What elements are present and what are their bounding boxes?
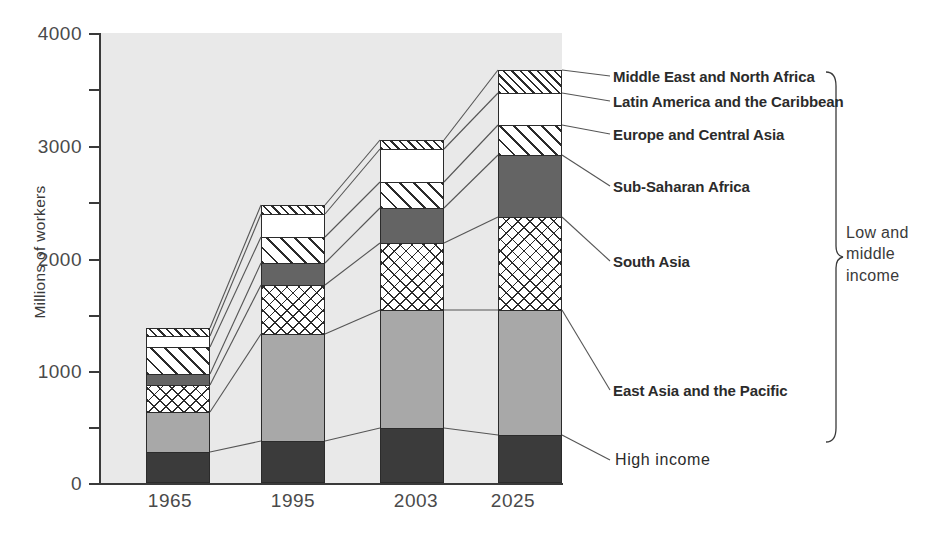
y-tick-1000 bbox=[89, 371, 100, 373]
x-label-1995: 1995 bbox=[248, 490, 338, 512]
legend-item-latin-america-and-the-caribbean: Latin America and the Caribbean bbox=[613, 93, 844, 110]
chart-figure: 4000 3000 2000 1000 0 Millions of worker… bbox=[0, 0, 930, 534]
segment-2003-high-income[interactable] bbox=[380, 428, 444, 483]
legend-item-south-asia: South Asia bbox=[613, 253, 690, 270]
legend-item-east-asia-and-the-pacific: East Asia and the Pacific bbox=[613, 382, 788, 399]
y-label-0: 0 bbox=[0, 474, 82, 493]
y-tick-1500 bbox=[89, 315, 100, 317]
legend-item-europe-and-central-asia: Europe and Central Asia bbox=[613, 126, 784, 143]
segment-2003-middle-east-north-africa[interactable] bbox=[380, 140, 444, 149]
segment-1965-sub-saharan-africa[interactable] bbox=[146, 374, 210, 385]
segment-2003-europe-central-asia[interactable] bbox=[380, 182, 444, 208]
legend-item-high-income: High income bbox=[615, 451, 711, 469]
legend-item-middle-east-and-north-africa: Middle East and North Africa bbox=[613, 68, 815, 85]
segment-2025-high-income[interactable] bbox=[498, 435, 562, 483]
bracket-caption-line-3: income bbox=[846, 265, 909, 286]
segment-1995-sub-saharan-africa[interactable] bbox=[261, 263, 325, 285]
bracket-caption: Low and middle income bbox=[846, 222, 909, 286]
segment-2025-middle-east-north-africa[interactable] bbox=[498, 70, 562, 93]
bracket-caption-line-1: Low and bbox=[846, 222, 909, 243]
y-axis-title: Millions of workers bbox=[31, 152, 49, 352]
segment-2025-europe-central-asia[interactable] bbox=[498, 125, 562, 155]
segment-1995-south-asia[interactable] bbox=[261, 285, 325, 334]
y-label-1000: 1000 bbox=[0, 362, 82, 381]
bar-2025[interactable] bbox=[498, 70, 562, 483]
x-label-2025: 2025 bbox=[468, 490, 558, 512]
segment-1995-middle-east-north-africa[interactable] bbox=[261, 205, 325, 214]
segment-2025-south-asia[interactable] bbox=[498, 217, 562, 310]
segment-1965-east-asia-pacific[interactable] bbox=[146, 412, 210, 452]
segment-1995-high-income[interactable] bbox=[261, 441, 325, 483]
segment-2003-latin-america-caribbean[interactable] bbox=[380, 149, 444, 182]
segment-1965-south-asia[interactable] bbox=[146, 385, 210, 412]
y-tick-500 bbox=[89, 427, 100, 429]
segment-1995-east-asia-pacific[interactable] bbox=[261, 334, 325, 441]
legend-item-sub-saharan-africa: Sub-Saharan Africa bbox=[613, 178, 750, 195]
bar-2003[interactable] bbox=[380, 140, 444, 483]
bracket-caption-line-2: middle bbox=[846, 243, 909, 264]
segment-1965-high-income[interactable] bbox=[146, 452, 210, 483]
y-tick-2500 bbox=[89, 202, 100, 204]
segment-2003-sub-saharan-africa[interactable] bbox=[380, 208, 444, 243]
segment-1965-latin-america-caribbean[interactable] bbox=[146, 336, 210, 347]
segment-1995-europe-central-asia[interactable] bbox=[261, 237, 325, 263]
segment-2025-sub-saharan-africa[interactable] bbox=[498, 155, 562, 217]
y-tick-3500 bbox=[89, 89, 100, 91]
segment-2025-latin-america-caribbean[interactable] bbox=[498, 93, 562, 125]
segment-1995-latin-america-caribbean[interactable] bbox=[261, 214, 325, 237]
segment-2025-east-asia-pacific[interactable] bbox=[498, 310, 562, 435]
bar-1965[interactable] bbox=[146, 328, 210, 483]
segment-2003-east-asia-pacific[interactable] bbox=[380, 310, 444, 428]
x-axis-line bbox=[99, 483, 563, 485]
segment-1965-europe-central-asia[interactable] bbox=[146, 347, 210, 374]
x-label-1965: 1965 bbox=[125, 490, 215, 512]
bar-1995[interactable] bbox=[261, 205, 325, 483]
y-tick-2000 bbox=[89, 259, 100, 261]
y-tick-3000 bbox=[89, 146, 100, 148]
y-tick-4000 bbox=[89, 33, 100, 35]
segment-1965-middle-east-north-africa[interactable] bbox=[146, 328, 210, 336]
x-label-2003: 2003 bbox=[371, 490, 461, 512]
y-label-4000: 4000 bbox=[0, 24, 82, 43]
segment-2003-south-asia[interactable] bbox=[380, 243, 444, 310]
